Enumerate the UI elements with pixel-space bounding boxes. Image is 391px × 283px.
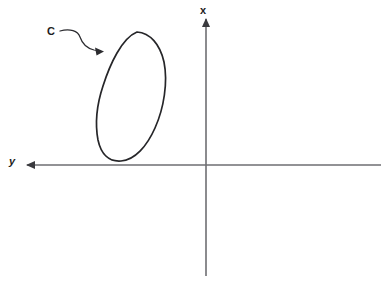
curved-arrow-icon xyxy=(60,30,104,56)
axis-arrow-up-icon xyxy=(202,18,210,27)
figure-canvas: x y C xyxy=(0,0,391,283)
vertical-axis xyxy=(202,18,210,276)
axis-arrow-left-icon xyxy=(26,161,35,169)
horizontal-axis xyxy=(26,161,381,169)
axis-label-x: x xyxy=(200,5,206,16)
curve-label-c: C xyxy=(47,26,55,37)
closed-curve-c xyxy=(97,32,166,161)
curved-arrow-head-icon xyxy=(95,48,104,56)
figure-graphics xyxy=(0,0,391,283)
axis-label-y: y xyxy=(9,156,15,167)
